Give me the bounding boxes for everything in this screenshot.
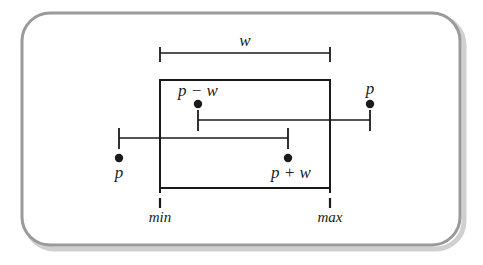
p-endpoint-right-label: p — [365, 79, 375, 98]
figure-container: w p − w p p p + w — [0, 0, 483, 265]
p-minus-w-label: p − w — [177, 81, 218, 100]
w-span-label: w — [239, 31, 251, 50]
p-plus-w-label: p + w — [270, 163, 311, 182]
p-plus-w-dot — [284, 154, 292, 162]
p-minus-w-dot — [194, 100, 202, 108]
max-label: max — [318, 209, 343, 225]
p-endpoint-left-dot — [115, 154, 123, 162]
interval-overlap-diagram: w p − w p p p + w — [0, 0, 483, 265]
p-endpoint-left-label: p — [114, 163, 124, 182]
min-label: min — [149, 209, 172, 225]
p-endpoint-right-dot — [366, 100, 374, 108]
